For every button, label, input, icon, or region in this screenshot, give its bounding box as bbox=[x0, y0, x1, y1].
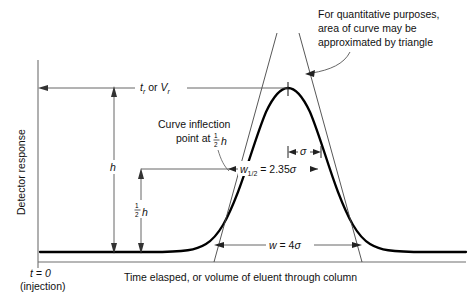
inflection-line-1: Curve inflection bbox=[158, 118, 231, 130]
triangle-note-line-1: For quantitative purposes, bbox=[318, 8, 439, 20]
inflection-numerator: 1 bbox=[214, 132, 218, 139]
half-width-sigma: σ bbox=[290, 163, 297, 175]
retention-label-group: tr or Vr bbox=[140, 81, 170, 95]
chromatogram-figure: tr or Vr h 1 2 h σ w1/2 = 2.35σ w = 4σ bbox=[0, 0, 472, 294]
base-width-label-group: w = 4σ bbox=[269, 239, 301, 251]
origin-label-line-2: (injection) bbox=[20, 280, 66, 292]
origin-label-line-1: t = 0 bbox=[30, 267, 51, 279]
triangle-note-line-2: area of curve may be bbox=[318, 22, 417, 34]
half-h-variable: h bbox=[142, 206, 148, 218]
inflection-line-2: point at bbox=[176, 132, 211, 144]
base-width-sigma: σ bbox=[294, 239, 301, 251]
base-width-eq: = 4 bbox=[280, 239, 295, 251]
inflection-variable: h bbox=[221, 135, 227, 147]
half-width-eq: = 2.35 bbox=[260, 163, 290, 175]
h-label: h bbox=[110, 161, 116, 173]
triangle-note-line-3: approximated by triangle bbox=[318, 36, 433, 48]
origin-t-symbol: t = 0 bbox=[30, 267, 51, 279]
sigma-label: σ bbox=[300, 145, 307, 157]
half-width-sub: 1/2 bbox=[248, 170, 258, 177]
half-h-denominator: 2 bbox=[135, 211, 139, 218]
inflection-denominator: 2 bbox=[214, 141, 218, 148]
y-axis-label: Detector response bbox=[15, 129, 27, 215]
x-axis-label: Time elasped, or volume of eluent throug… bbox=[124, 271, 357, 283]
half-h-numerator: 1 bbox=[135, 202, 139, 209]
